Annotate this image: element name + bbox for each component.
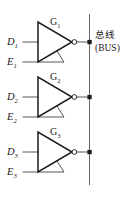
inverter-bubble-2 [72, 95, 77, 100]
enable-input-label-3: E3 [6, 166, 17, 179]
enable-input-wire-2 [23, 106, 64, 117]
gate-triangle-2 [38, 77, 72, 117]
bus-junction-dot-1 [87, 40, 91, 44]
figure-canvas: G1 D1 E1 G2 D2 E2 G3 D3 [0, 0, 131, 197]
gate-group-1[interactable]: G1 D1 E1 [6, 16, 92, 69]
inverter-bubble-1 [72, 40, 77, 45]
data-input-label-3: D3 [6, 146, 19, 159]
gate-label-3: G3 [50, 126, 60, 139]
enable-input-label-1: E1 [6, 56, 17, 69]
logic-circuit-diagram: G1 D1 E1 G2 D2 E2 G3 D3 [0, 0, 131, 197]
bus-label-cn: 总线 [95, 29, 115, 40]
gate-group-2[interactable]: G2 D2 E2 [6, 71, 92, 124]
gate-label-2: G2 [50, 71, 60, 84]
inverter-bubble-3 [72, 150, 77, 155]
gate-label-1: G1 [50, 16, 60, 29]
enable-input-label-2: E2 [6, 111, 17, 124]
bus-label-en: (BUS) [95, 43, 120, 54]
bus-junction-dot-2 [87, 95, 91, 99]
enable-input-wire-1 [23, 51, 64, 62]
gate-triangle-3 [38, 132, 72, 172]
gate-group-3[interactable]: G3 D3 E3 [6, 126, 92, 179]
gate-triangle-1 [38, 22, 72, 62]
enable-input-wire-3 [23, 161, 64, 172]
data-input-label-1: D1 [6, 36, 18, 49]
bus-junction-dot-3 [87, 150, 91, 154]
data-input-label-2: D2 [6, 91, 19, 104]
